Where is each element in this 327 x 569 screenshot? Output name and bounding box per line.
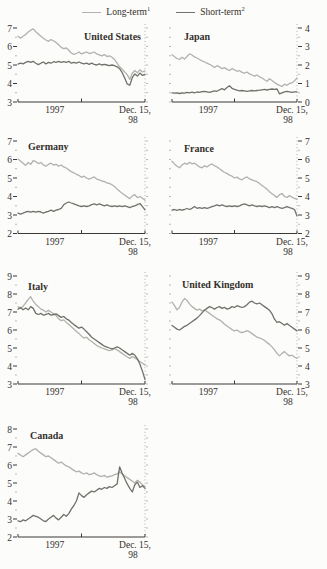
- footnote-marker-2: 2: [241, 5, 244, 12]
- y-tick-label: 5: [7, 61, 12, 71]
- chart-title: Canada: [30, 430, 63, 441]
- short-term-series-canada: [18, 467, 145, 522]
- y-tick-label: 7: [7, 137, 12, 147]
- y-tick-label: 5: [7, 174, 12, 184]
- france-chart: 2345671997Dec. 15,98France: [164, 133, 327, 265]
- united-states-chart: 345671997Dec. 15,98United States: [0, 20, 163, 132]
- y-tick-label: 7: [305, 308, 310, 318]
- chart-title: United States: [84, 31, 141, 42]
- y-tick-label: 5: [7, 479, 12, 489]
- y-tick-label: 2: [305, 61, 310, 71]
- y-tick-label: 6: [305, 326, 310, 336]
- x-label-1997: 1997: [45, 387, 64, 397]
- short-term-line-swatch: [176, 12, 195, 13]
- canada-chart: 23456781997Dec. 15,98Canada: [0, 421, 163, 569]
- chart-title: Germany: [28, 141, 69, 152]
- x-label-98: 98: [128, 115, 138, 125]
- y-tick-label: 7: [7, 24, 12, 34]
- chart-title: Japan: [184, 31, 211, 42]
- y-tick-label: 5: [305, 344, 310, 354]
- y-tick-label: 8: [305, 290, 310, 300]
- short-term-series-france: [172, 204, 297, 216]
- y-tick-label: 4: [7, 192, 12, 202]
- chart-panel-united-states: 345671997Dec. 15,98United States: [0, 20, 163, 136]
- legend: Long-term1 Short-term2: [0, 5, 327, 19]
- y-tick-label: 4: [305, 24, 310, 34]
- y-tick-label: 7: [7, 308, 12, 318]
- y-tick-label: 3: [7, 98, 12, 108]
- y-tick-label: 6: [305, 155, 310, 165]
- y-tick-label: 5: [7, 344, 12, 354]
- germany-chart: 2345671997Dec. 15,98Germany: [0, 133, 163, 265]
- x-label-dec15: Dec. 15,: [119, 105, 151, 115]
- y-tick-label: 1: [305, 79, 310, 89]
- italy-chart: 34567891997Dec. 15,98Italy: [0, 268, 163, 416]
- x-label-dec15: Dec. 15,: [119, 387, 151, 397]
- x-label-98: 98: [128, 247, 138, 257]
- y-tick-label: 6: [7, 461, 12, 471]
- y-tick-label: 2: [7, 229, 12, 239]
- y-tick-label: 6: [7, 42, 12, 52]
- y-tick-label: 3: [305, 42, 310, 52]
- y-tick-label: 9: [305, 272, 310, 282]
- y-tick-label: 7: [305, 137, 310, 147]
- x-label-1997: 1997: [45, 105, 64, 115]
- y-tick-label: 3: [7, 380, 12, 390]
- y-tick-label: 2: [7, 533, 12, 543]
- x-label-1997: 1997: [199, 237, 218, 247]
- chart-panel-italy: 34567891997Dec. 15,98Italy: [0, 268, 163, 420]
- y-tick-label: 4: [7, 362, 12, 372]
- long-term-series-italy: [18, 297, 145, 365]
- x-label-dec15: Dec. 15,: [276, 237, 308, 247]
- chart-panel-japan: 012341997Dec. 15,98Japan: [164, 20, 327, 136]
- footnote-marker-1: 1: [147, 5, 150, 12]
- x-label-1997: 1997: [199, 105, 218, 115]
- x-label-98: 98: [283, 247, 293, 257]
- x-label-dec15: Dec. 15,: [276, 105, 308, 115]
- chart-panel-germany: 2345671997Dec. 15,98Germany: [0, 133, 163, 269]
- y-tick-label: 7: [7, 443, 12, 453]
- united-kingdom-chart: 34567891997Dec. 15,98United Kingdom: [164, 268, 327, 416]
- short-term-series-germany: [18, 202, 145, 214]
- legend-item-long-term: Long-term1: [82, 7, 150, 17]
- x-label-1997: 1997: [199, 387, 218, 397]
- x-label-98: 98: [283, 115, 293, 125]
- x-label-98: 98: [128, 397, 138, 407]
- y-tick-label: 5: [305, 174, 310, 184]
- y-tick-label: 3: [7, 211, 12, 221]
- legend-label-short-term: Short-term2: [200, 7, 244, 17]
- long-term-series-germany: [18, 159, 145, 200]
- y-tick-label: 3: [305, 211, 310, 221]
- legend-item-short-term: Short-term2: [176, 7, 244, 17]
- y-tick-label: 8: [7, 290, 12, 300]
- y-tick-label: 6: [7, 326, 12, 336]
- x-label-dec15: Dec. 15,: [119, 540, 151, 550]
- y-tick-label: 4: [7, 79, 12, 89]
- chart-panel-canada: 23456781997Dec. 15,98Canada: [0, 421, 163, 569]
- x-label-dec15: Dec. 15,: [119, 237, 151, 247]
- legend-label-long-term: Long-term1: [106, 7, 150, 17]
- chart-panel-france: 2345671997Dec. 15,98France: [164, 133, 327, 269]
- x-label-98: 98: [283, 397, 293, 407]
- long-term-series-france: [172, 161, 297, 199]
- y-tick-label: 4: [305, 362, 310, 372]
- short-term-series-japan: [172, 86, 297, 94]
- y-tick-label: 9: [7, 272, 12, 282]
- y-tick-label: 4: [7, 497, 12, 507]
- japan-chart: 012341997Dec. 15,98Japan: [164, 20, 327, 132]
- chart-panel-united-kingdom: 34567891997Dec. 15,98United Kingdom: [164, 268, 327, 420]
- chart-title: France: [184, 143, 215, 154]
- y-tick-label: 4: [305, 192, 310, 202]
- long-term-series-japan: [172, 54, 297, 87]
- y-tick-label: 6: [7, 155, 12, 165]
- y-tick-label: 8: [7, 425, 12, 435]
- x-label-1997: 1997: [45, 237, 64, 247]
- long-term-line-swatch: [82, 12, 101, 13]
- x-label-dec15: Dec. 15,: [276, 387, 308, 397]
- x-label-1997: 1997: [45, 540, 64, 550]
- x-label-98: 98: [128, 550, 138, 560]
- chart-title: Italy: [28, 281, 48, 292]
- chart-title: United Kingdom: [182, 279, 254, 290]
- short-term-series-italy: [18, 307, 145, 380]
- y-tick-label: 3: [7, 515, 12, 525]
